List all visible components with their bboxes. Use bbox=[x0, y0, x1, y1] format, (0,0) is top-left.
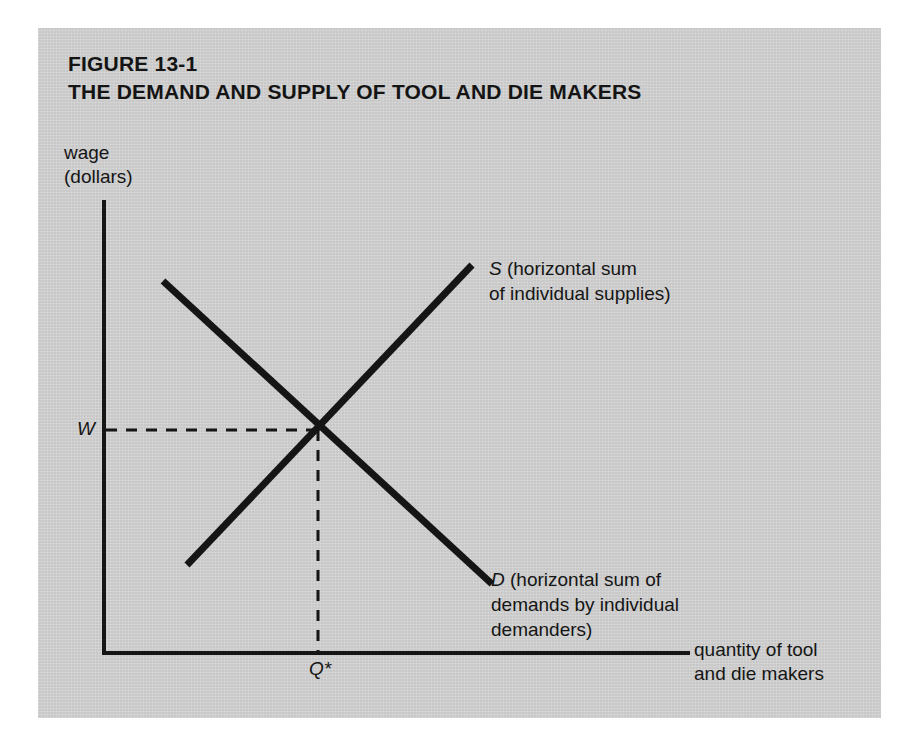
figure-page: FIGURE 13-1 THE DEMAND AND SUPPLY OF TOO… bbox=[0, 0, 917, 753]
x-axis-label-line1: quantity of tool bbox=[694, 638, 824, 662]
demand-curve-label-line2: demands by individual bbox=[491, 592, 679, 617]
demand-label-text1: (horizontal sum of bbox=[505, 569, 661, 590]
equilibrium-wage-label: W bbox=[77, 418, 95, 440]
equilibrium-quantity-label: Q* bbox=[309, 658, 331, 680]
x-axis-label: quantity of tool and die makers bbox=[694, 638, 824, 686]
supply-demand-chart bbox=[38, 28, 881, 718]
supply-symbol: S bbox=[489, 258, 502, 279]
demand-curve-label-line3: demanders) bbox=[491, 617, 679, 642]
demand-curve-label-line1: D (horizontal sum of bbox=[491, 567, 679, 592]
y-axis-label-line1: wage bbox=[64, 141, 133, 165]
figure-panel: FIGURE 13-1 THE DEMAND AND SUPPLY OF TOO… bbox=[38, 28, 881, 718]
supply-curve-label-line1: S (horizontal sum bbox=[489, 256, 671, 281]
supply-curve bbox=[187, 265, 472, 565]
y-axis-label-line2: (dollars) bbox=[64, 165, 133, 189]
x-axis-label-line2: and die makers bbox=[694, 662, 824, 686]
demand-symbol: D bbox=[491, 569, 505, 590]
supply-label-text1: (horizontal sum bbox=[502, 258, 637, 279]
supply-curve-label: S (horizontal sum of individual supplies… bbox=[489, 256, 671, 306]
y-axis-label: wage (dollars) bbox=[64, 141, 133, 189]
supply-curve-label-line2: of individual supplies) bbox=[489, 281, 671, 306]
demand-curve-label: D (horizontal sum of demands by individu… bbox=[491, 567, 679, 642]
